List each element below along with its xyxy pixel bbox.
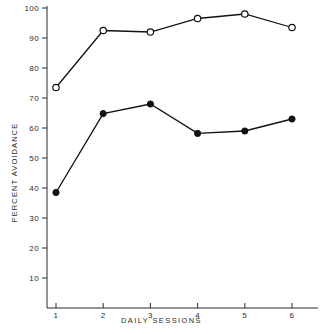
- chart-container: 102030405060708090100 123456 PERCENT AVO…: [0, 0, 323, 334]
- data-point-open-circle: [53, 84, 59, 90]
- y-tick-label: 20: [29, 244, 39, 253]
- data-point-filled-circle: [242, 128, 248, 134]
- data-point-open-circle: [100, 27, 106, 33]
- data-point-filled-circle: [195, 130, 201, 136]
- series-line-open-circle-series: [56, 14, 292, 88]
- y-tick-label: 60: [29, 124, 39, 133]
- y-tick-label: 10: [29, 274, 39, 283]
- data-point-open-circle: [242, 11, 248, 17]
- data-point-filled-circle: [100, 111, 106, 117]
- y-tick-label: 90: [29, 34, 39, 43]
- y-tick-label: 100: [24, 4, 39, 13]
- data-series-group: [53, 11, 295, 196]
- line-chart-plot: 102030405060708090100 123456: [0, 0, 323, 334]
- data-point-open-circle: [289, 24, 295, 30]
- y-tick-label: 70: [29, 94, 39, 103]
- data-point-filled-circle: [53, 189, 59, 195]
- y-axis-title: PERCENT AVOIDANCE: [10, 113, 19, 233]
- data-point-filled-circle: [147, 101, 153, 107]
- data-point-filled-circle: [289, 116, 295, 122]
- series-line-filled-circle-series: [56, 104, 292, 193]
- y-tick-label: 50: [29, 154, 39, 163]
- x-axis-title: DAILY SESSIONS: [0, 316, 323, 325]
- y-axis: 102030405060708090100: [24, 4, 47, 308]
- data-point-open-circle: [147, 29, 153, 35]
- y-tick-label: 80: [29, 64, 39, 73]
- y-tick-label: 30: [29, 214, 39, 223]
- y-tick-label: 40: [29, 184, 39, 193]
- data-point-open-circle: [194, 15, 200, 21]
